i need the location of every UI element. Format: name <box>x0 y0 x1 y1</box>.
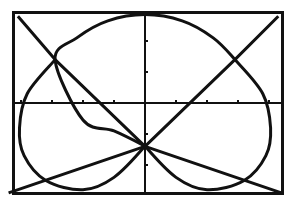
graph-screen <box>0 0 299 207</box>
graph-canvas <box>0 0 299 207</box>
line-2 <box>9 16 279 193</box>
line-1 <box>18 16 282 193</box>
